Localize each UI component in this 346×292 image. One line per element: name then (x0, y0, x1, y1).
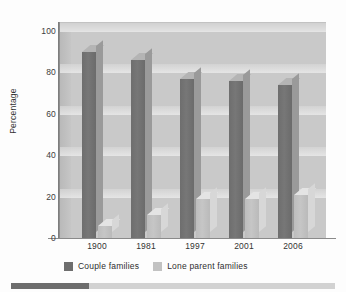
y-tick-label-20: 20 (26, 192, 56, 202)
bar-side-face (96, 40, 103, 232)
y-tick-label-40: 40 (26, 150, 56, 160)
bar-2001-couple (229, 81, 243, 238)
y-tick-label-80: 80 (26, 67, 56, 77)
bar-2006-lone-parent (294, 195, 308, 238)
bar-side-face (308, 183, 315, 232)
y-axis-ticks: 020406080100 (18, 0, 56, 292)
bar-2001-lone-parent (245, 199, 259, 238)
chart-legend: Couple familiesLone parent families (64, 259, 248, 273)
bar-2006-couple (278, 85, 292, 238)
y-axis-line (58, 22, 59, 239)
x-tick-label-1981: 1981 (124, 241, 168, 251)
bar-side-face (259, 187, 266, 232)
y-tick-label-0: 0 (26, 233, 56, 243)
x-tick-label-1997: 1997 (173, 241, 217, 251)
gridline-100 (60, 23, 326, 32)
bar-side-face (210, 187, 217, 232)
bottom-progress-fill (11, 283, 89, 289)
bar-front-face (147, 215, 161, 238)
bar-side-face (145, 48, 152, 232)
bar-1981-lone-parent (147, 215, 161, 238)
y-tick-label-60: 60 (26, 109, 56, 119)
x-tick-label-1900: 1900 (75, 241, 119, 251)
x-tick-label-2006: 2006 (271, 241, 315, 251)
legend-label: Couple families (78, 261, 139, 271)
y-tick-label-100: 100 (26, 26, 56, 36)
bar-front-face (229, 81, 243, 238)
bar-front-face (278, 85, 292, 238)
legend-swatch-icon (64, 262, 73, 271)
bar-1900-couple (82, 52, 96, 238)
bar-side-face (112, 214, 119, 232)
panel-side-wall (60, 22, 71, 238)
bottom-progress-bar[interactable] (11, 283, 335, 289)
legend-swatch-icon (153, 262, 162, 271)
bar-front-face (98, 226, 112, 238)
bar-side-face (161, 203, 168, 232)
bar-front-face (245, 199, 259, 238)
y-axis-title: Percentage (8, 75, 18, 147)
bar-1981-couple (131, 60, 145, 238)
legend-item-couple-families[interactable]: Couple families (64, 261, 139, 271)
bar-1900-lone-parent (98, 226, 112, 238)
chart-figure: 020406080100 Percentage 1900198119972001… (0, 0, 346, 292)
x-axis-line (48, 238, 336, 239)
bar-front-face (131, 60, 145, 238)
bar-front-face (294, 195, 308, 238)
bar-1997-couple (180, 79, 194, 238)
x-tick-label-2001: 2001 (222, 241, 266, 251)
bar-front-face (82, 52, 96, 238)
legend-item-lone-parent-families[interactable]: Lone parent families (153, 261, 248, 271)
bar-front-face (196, 199, 210, 238)
plot-area (59, 22, 326, 238)
x-axis-ticks: 19001981199720012006 (59, 241, 326, 255)
bar-front-face (180, 79, 194, 238)
legend-label: Lone parent families (167, 261, 248, 271)
bar-1997-lone-parent (196, 199, 210, 238)
